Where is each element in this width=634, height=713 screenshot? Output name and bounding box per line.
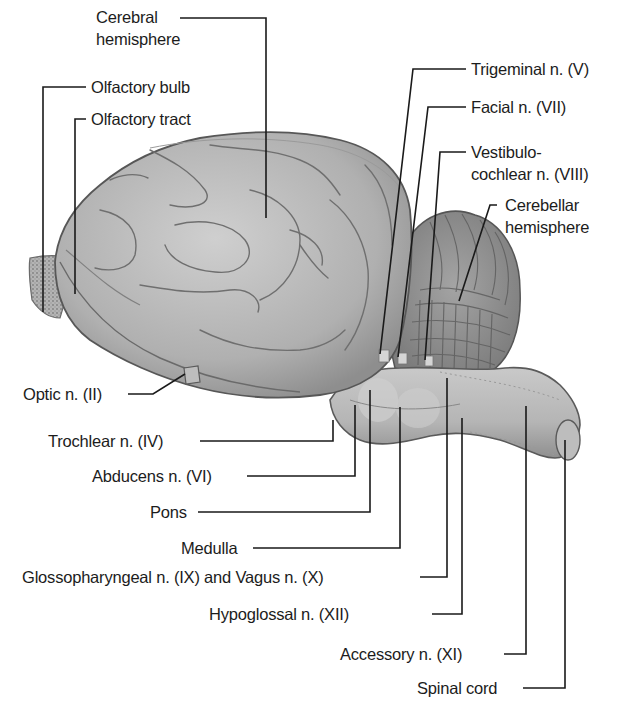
label-olfactory-bulb: Olfactory bulb [91,77,190,97]
label-abducens-nerve: Abducens n. (VI) [92,466,212,486]
label-medulla: Medulla [181,538,237,558]
label-line: hemisphere [96,28,180,50]
label-accessory-nerve: Accessory n. (XI) [340,644,462,664]
label-pons: Pons [150,502,187,522]
label-trochlear-nerve: Trochlear n. (IV) [48,431,163,451]
label-line: cochlear n. (VIII) [471,163,588,185]
brain-diagram: Cerebral hemisphere Olfactory bulb Olfac… [0,0,634,713]
cerebral-hemisphere [55,132,412,397]
label-line: Cerebellar [505,194,589,216]
label-optic-nerve: Optic n. (II) [23,384,102,404]
label-hypoglossal-nerve: Hypoglossal n. (XII) [209,604,349,624]
label-vestibulocochlear-nerve: Vestibulo- cochlear n. (VIII) [471,141,588,185]
brainstem [330,368,580,460]
label-line: Cerebral [96,6,180,28]
label-line: hemisphere [505,216,589,238]
label-trigeminal-nerve: Trigeminal n. (V) [471,59,589,79]
label-cerebral-hemisphere: Cerebral hemisphere [96,6,180,50]
label-glossopharyngeal-vagus-nerves: Glossopharyngeal n. (IX) and Vagus n. (X… [22,567,324,587]
label-facial-nerve: Facial n. (VII) [471,97,566,117]
label-cerebellar-hemisphere: Cerebellar hemisphere [505,194,589,238]
label-spinal-cord: Spinal cord [417,678,497,698]
optic-nerve [184,366,200,384]
label-line: Vestibulo- [471,141,588,163]
label-olfactory-tract: Olfactory tract [91,109,191,129]
